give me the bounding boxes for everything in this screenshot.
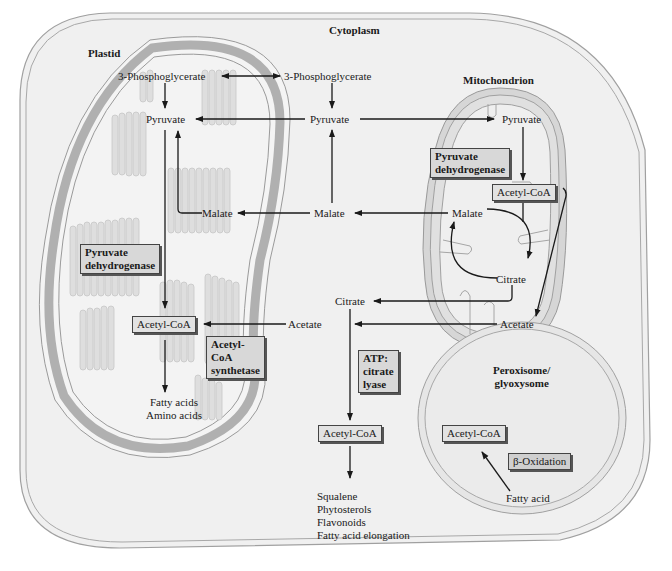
plastid-pyruvate-dehydrogenase: Pyruvate dehydrogenase xyxy=(80,244,160,274)
plastid-3-phosphoglycerate: 3-Phosphoglycerate xyxy=(118,70,205,83)
acetyl-coa-synthetase: Acetyl- CoA synthetase xyxy=(206,336,265,379)
cytoplasm-products: Squalene Phytosterols Flavonoids Fatty a… xyxy=(317,490,410,542)
cytoplasm-citrate: Citrate xyxy=(335,295,365,308)
peroxisome-fatty-acid: Fatty acid xyxy=(506,492,550,505)
mitochondrion-acetate: Acetate xyxy=(500,318,534,331)
mitochondrion-organelle xyxy=(423,88,567,350)
mitochondrion-label: Mitochondrion xyxy=(463,74,534,87)
mitochondrion-citrate: Citrate xyxy=(496,273,526,286)
cytoplasm-acetate: Acetate xyxy=(288,318,322,331)
cytoplasm-label: Cytoplasm xyxy=(329,24,380,37)
cytoplasm-3-phosphoglycerate: 3-Phosphoglycerate xyxy=(284,70,371,83)
peroxisome-label: Peroxisome/ glyoxysome xyxy=(493,364,550,390)
mitochondrion-pyruvate-dehydrogenase: Pyruvate dehydrogenase xyxy=(430,148,510,178)
plastid-acetyl-coa-box: Acetyl-CoA xyxy=(132,316,196,333)
plastid-products: Fatty acids Amino acids xyxy=(146,396,202,422)
diagram-graphics xyxy=(0,0,672,571)
mitochondrion-pyruvate: Pyruvate xyxy=(502,113,541,126)
mitochondrion-acetyl-coa-box: Acetyl-CoA xyxy=(492,184,556,201)
metabolic-pathway-diagram: Cytoplasm Plastid Mitochondrion Peroxiso… xyxy=(0,0,672,571)
peroxisome-organelle xyxy=(418,322,626,514)
plastid-malate: Malate xyxy=(202,207,233,220)
peroxisome-acetyl-coa-box: Acetyl-CoA xyxy=(442,425,506,442)
mitochondrion-malate: Malate xyxy=(452,207,483,220)
beta-oxidation-box: β-Oxidation xyxy=(508,453,571,470)
plastid-label: Plastid xyxy=(88,47,120,60)
cytoplasm-pyruvate: Pyruvate xyxy=(310,113,349,126)
cytoplasm-malate: Malate xyxy=(314,207,345,220)
cytoplasm-acetyl-coa-box: Acetyl-CoA xyxy=(318,425,382,442)
plastid-pyruvate: Pyruvate xyxy=(146,113,185,126)
atp-citrate-lyase: ATP: citrate lyase xyxy=(358,350,399,393)
